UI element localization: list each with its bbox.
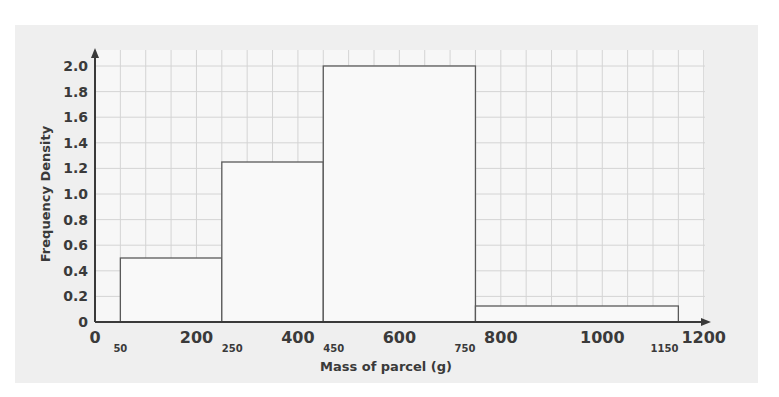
class-boundary-label: 450 <box>323 343 344 354</box>
y-tick-label: 1.6 <box>63 109 88 125</box>
y-tick-label: 1.8 <box>63 84 88 100</box>
histogram-bar <box>120 258 221 322</box>
x-tick-label: 1000 <box>580 328 625 347</box>
y-tick-label: 0.6 <box>63 237 88 253</box>
y-tick-label: 0 <box>78 314 88 330</box>
class-boundary-label: 750 <box>455 343 476 354</box>
y-axis-label: Frequency Density <box>38 125 53 262</box>
x-tick-label: 800 <box>484 328 517 347</box>
class-boundary-label: 1150 <box>651 343 679 354</box>
x-tick-label: 1200 <box>681 328 726 347</box>
y-tick-label: 0.2 <box>63 288 88 304</box>
x-axis-arrow-icon <box>701 318 711 326</box>
class-boundary-label: 250 <box>222 343 243 354</box>
class-boundary-label: 50 <box>113 343 127 354</box>
x-axis-ticks: 020040060080010001200 <box>89 328 726 347</box>
y-tick-label: 1.0 <box>63 186 88 202</box>
x-tick-label: 600 <box>383 328 416 347</box>
x-axis-label: Mass of parcel (g) <box>320 359 452 374</box>
y-tick-label: 2.0 <box>63 58 88 74</box>
histogram-bar <box>475 306 678 322</box>
histogram-bar <box>323 66 475 322</box>
y-axis-ticks: 00.20.40.60.81.01.21.41.61.82.0 <box>63 58 88 330</box>
x-tick-label: 200 <box>180 328 213 347</box>
y-tick-label: 0.4 <box>63 263 88 279</box>
y-tick-label: 0.8 <box>63 212 88 228</box>
x-tick-label: 400 <box>281 328 314 347</box>
y-tick-label: 1.4 <box>63 135 88 151</box>
histogram-chart: 00.20.40.60.81.01.21.41.61.82.0 02004006… <box>0 0 779 397</box>
histogram-bar <box>222 162 323 322</box>
x-tick-label: 0 <box>89 328 100 347</box>
y-tick-label: 1.2 <box>63 160 88 176</box>
